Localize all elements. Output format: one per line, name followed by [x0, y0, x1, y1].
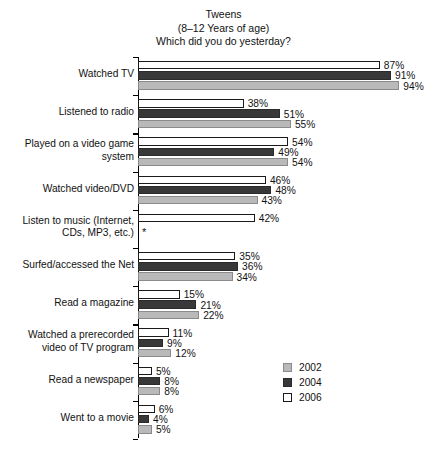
category-label: Surfed/accessed the Net [22, 259, 134, 271]
bar-2004 [138, 300, 196, 308]
chart-legend: 2002 2004 2006 [283, 360, 322, 405]
bar-2004 [138, 109, 280, 117]
bar-2002 [138, 425, 152, 433]
bar-value-label: 38% [248, 99, 268, 109]
category-label: Watched video/DVD [43, 183, 134, 195]
bar-2002 [138, 158, 288, 166]
bar-2004 [138, 377, 160, 385]
bar-value-label: 22% [203, 311, 223, 321]
axis-tick [133, 324, 138, 325]
bar-2004 [138, 262, 238, 270]
bar-2002 [138, 387, 160, 395]
bar-2006 [138, 99, 244, 107]
bar-2004 [138, 339, 163, 347]
bar-2006 [138, 367, 152, 375]
bar-value-label: 8% [164, 387, 179, 397]
bar-value-label: 54% [292, 158, 312, 168]
bar-2002 [138, 81, 399, 89]
category-label: Listen to music (Internet, CDs, MP3, etc… [22, 215, 134, 240]
bar-2004 [138, 186, 271, 194]
bar-2002 [138, 272, 233, 280]
legend-label-2002: 2002 [299, 362, 322, 373]
bar-value-label: 12% [175, 349, 195, 359]
axis-tick [133, 95, 138, 96]
axis-tick [133, 439, 138, 440]
axis-tick [133, 248, 138, 249]
legend-label-2004: 2004 [299, 377, 322, 388]
bar-value-label: 5% [156, 425, 171, 435]
legend-swatch-2004-icon [283, 378, 292, 387]
category-label: Watched TV [79, 68, 135, 80]
category-label: Played on a video game system [25, 138, 134, 163]
bar-2004 [138, 71, 391, 79]
bar-value-label: 34% [237, 273, 257, 283]
bar-2006 [138, 61, 380, 69]
bar-2002 [138, 196, 258, 204]
axis-tick [133, 172, 138, 173]
category-label: Listened to radio [59, 106, 134, 118]
bar-2002 [138, 311, 199, 319]
bar-2006 [138, 214, 255, 222]
bar-2006 [138, 405, 155, 413]
axis-tick [133, 210, 138, 211]
axis-tick [133, 57, 138, 58]
bar-2006 [138, 252, 235, 260]
bar-2006 [138, 328, 169, 336]
legend-item-2002: 2002 [283, 360, 322, 375]
bar-2006 [138, 176, 266, 184]
legend-swatch-2006-icon [283, 393, 292, 402]
plot-area: Watched TVListened to radioPlayed on a v… [0, 57, 447, 442]
legend-item-2004: 2004 [283, 375, 322, 390]
axis-tick [133, 363, 138, 364]
bar-value-label: 42% [259, 214, 279, 224]
bar-value-label: 94% [403, 82, 423, 92]
axis-tick [133, 133, 138, 134]
category-label: Read a magazine [54, 297, 134, 309]
category-label: Read a newspaper [48, 374, 134, 386]
category-label: Went to a movie [61, 412, 134, 424]
bar-value-label: 55% [295, 120, 315, 130]
legend-swatch-2002-icon [283, 363, 292, 372]
missing-data-asterisk: * [142, 228, 146, 236]
bar-value-label: 91% [395, 71, 415, 81]
chart-title-line-3: Which did you do yesterday? [0, 35, 447, 49]
bar-2004 [138, 148, 274, 156]
chart-container: Tweens (8–12 Years of age) Which did you… [0, 0, 447, 452]
bar-2004 [138, 415, 149, 423]
chart-title-line-2: (8–12 Years of age) [0, 22, 447, 36]
chart-title: Tweens (8–12 Years of age) Which did you… [0, 8, 447, 49]
legend-label-2006: 2006 [299, 392, 322, 403]
bar-2006 [138, 137, 288, 145]
axis-tick [133, 286, 138, 287]
bar-2002 [138, 349, 171, 357]
bar-2002 [138, 120, 291, 128]
bar-2006 [138, 290, 180, 298]
chart-title-line-1: Tweens [0, 8, 447, 22]
axis-tick [133, 401, 138, 402]
bar-value-label: 15% [184, 290, 204, 300]
bar-value-label: 36% [242, 262, 262, 272]
legend-item-2006: 2006 [283, 390, 322, 405]
category-label: Watched a prerecorded video of TV progra… [28, 329, 134, 354]
bar-value-label: 43% [262, 196, 282, 206]
